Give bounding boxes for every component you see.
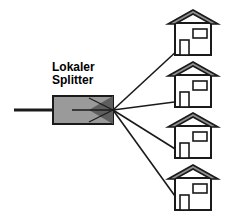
- drop-line-4: [113, 110, 180, 203]
- roof-icon: [168, 113, 218, 127]
- roof-icon: [168, 10, 218, 24]
- house-window: [193, 81, 207, 90]
- splitter-network-diagram: Lokaler Splitter: [0, 0, 228, 218]
- house-window: [193, 184, 207, 193]
- house-window: [193, 132, 207, 141]
- diagram-canvas: [0, 0, 228, 218]
- roof-icon: [168, 62, 218, 76]
- house-2[interactable]: [168, 62, 218, 107]
- house-window: [193, 29, 207, 38]
- house-door: [180, 143, 189, 158]
- house-1[interactable]: [168, 10, 218, 55]
- roof-icon: [168, 165, 218, 179]
- drop-line-2: [113, 101, 182, 110]
- splitter-label-line2: Splitter: [52, 74, 132, 87]
- house-3[interactable]: [168, 113, 218, 158]
- house-door: [180, 92, 189, 107]
- splitter-box[interactable]: [53, 96, 113, 124]
- splitter-label: Lokaler Splitter: [52, 61, 132, 87]
- drop-line-3: [113, 110, 180, 152]
- house-door: [180, 40, 189, 55]
- house-4[interactable]: [168, 165, 218, 210]
- house-door: [180, 195, 189, 210]
